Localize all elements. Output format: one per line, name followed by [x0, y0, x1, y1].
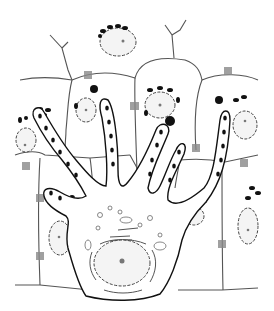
cell-diagram [0, 0, 274, 311]
illustration [0, 0, 274, 311]
